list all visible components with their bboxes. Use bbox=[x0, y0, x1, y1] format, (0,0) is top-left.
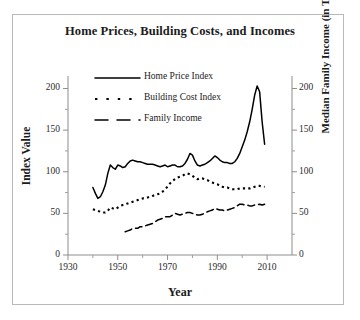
y-tick-label-right-50: 50 bbox=[299, 207, 321, 217]
x-tick-label-1930: 1930 bbox=[50, 262, 86, 272]
series-line-1 bbox=[93, 173, 265, 212]
x-tick-label-1970: 1970 bbox=[150, 262, 186, 272]
legend-swatches bbox=[95, 78, 140, 120]
legend-label-2: Family Income bbox=[144, 113, 202, 123]
x-tick-label-2010: 2010 bbox=[249, 262, 285, 272]
series-lines bbox=[93, 86, 265, 232]
x-tick-label-1990: 1990 bbox=[199, 262, 235, 272]
y-tick-label-right-0: 0 bbox=[299, 249, 321, 259]
y-tick-label-right-100: 100 bbox=[299, 166, 321, 176]
x-axis-ticks bbox=[68, 255, 267, 260]
y-tick-label-left-100: 100 bbox=[34, 166, 60, 176]
legend-label-1: Building Cost Index bbox=[144, 92, 221, 102]
series-line-0 bbox=[93, 86, 265, 198]
legend-label-0: Home Price Index bbox=[144, 71, 213, 81]
x-tick-label-1950: 1950 bbox=[100, 262, 136, 272]
y-tick-label-left-150: 150 bbox=[34, 124, 60, 134]
y-axis-title-left: Index Value bbox=[20, 101, 32, 211]
axis-lines bbox=[68, 76, 292, 255]
chart-plot-area bbox=[0, 0, 360, 320]
y-tick-label-right-150: 150 bbox=[299, 124, 321, 134]
series-line-2 bbox=[125, 204, 264, 231]
x-axis-title: Year bbox=[0, 285, 360, 300]
y-tick-label-left-200: 200 bbox=[34, 82, 60, 92]
y-axis-ticks-right bbox=[292, 88, 297, 255]
y-tick-label-left-50: 50 bbox=[34, 207, 60, 217]
y-axis-ticks-left bbox=[63, 88, 68, 255]
y-tick-label-left-0: 0 bbox=[34, 249, 60, 259]
y-tick-label-right-200: 200 bbox=[299, 82, 321, 92]
y-axis-title-right: Median Family Income (in Thousands) bbox=[296, 98, 354, 111]
